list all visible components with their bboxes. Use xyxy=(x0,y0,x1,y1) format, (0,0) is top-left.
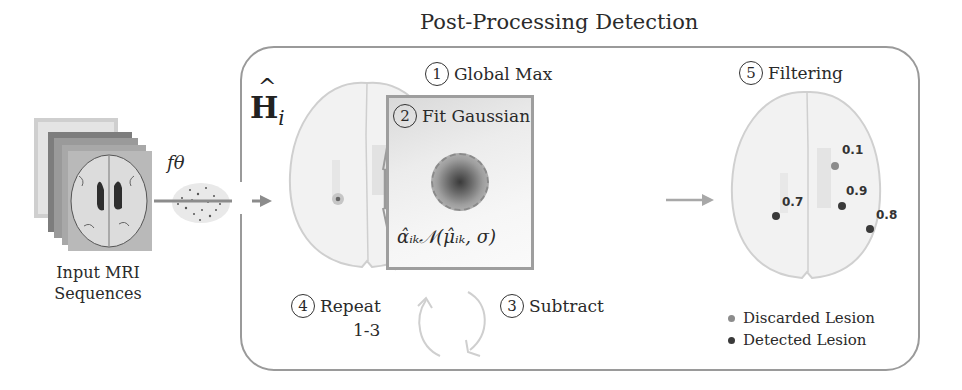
step-5-number: 5 xyxy=(739,61,763,85)
lesion-score: 0.7 xyxy=(782,195,803,209)
lesion-discarded-0-1 xyxy=(831,155,839,174)
lesion-score: 0.8 xyxy=(876,208,897,222)
heatmap-label-hat: ^ xyxy=(258,74,276,99)
input-caption-line1: Input MRI xyxy=(38,262,158,283)
input-caption: Input MRI Sequences xyxy=(38,262,158,304)
legend-item-discarded: Discarded Lesion xyxy=(728,309,875,327)
step-2-label: Fit Gaussian xyxy=(422,106,530,126)
diagram-title: Post-Processing Detection xyxy=(420,10,698,34)
legend: Discarded Lesion Detected Lesion xyxy=(728,309,875,349)
lesion-dot xyxy=(772,212,780,220)
lesion-detected-0-9 xyxy=(838,195,846,214)
legend-item-detected: Detected Lesion xyxy=(728,331,875,349)
step-1-label: Global Max xyxy=(454,64,552,84)
discarded-dot-icon xyxy=(728,315,735,322)
lesion-score: 0.9 xyxy=(846,184,867,198)
mri-sequence-stack xyxy=(34,116,154,251)
step-3-label: Subtract xyxy=(529,296,604,316)
step-3-number: 3 xyxy=(500,294,524,318)
step-4-label-line2: 1-3 xyxy=(353,320,380,340)
step-5-label: Filtering xyxy=(768,63,843,83)
lesion-score: 0.1 xyxy=(842,143,863,157)
gaussian-blob xyxy=(431,153,489,211)
to-filtering-arrow xyxy=(666,192,716,211)
lesion-dot xyxy=(831,162,839,170)
lesion-dot xyxy=(866,225,874,233)
step-5-filtering: 5 Filtering xyxy=(739,61,843,85)
step-3-subtract: 3 Subtract xyxy=(500,294,604,318)
legend-label-detected: Detected Lesion xyxy=(743,331,867,349)
detected-dot-icon xyxy=(728,337,735,344)
step-4-number: 4 xyxy=(291,294,315,318)
container-gap xyxy=(232,182,252,214)
legend-label-discarded: Discarded Lesion xyxy=(743,309,875,327)
input-caption-line2: Sequences xyxy=(38,283,158,304)
gaussian-zoom-box: 2 Fit Gaussian α̂ᵢₖ𝒩(μ̂ᵢₖ, σ) xyxy=(386,95,534,270)
step-2-number: 2 xyxy=(393,104,417,128)
model-label-text: fθ xyxy=(167,152,185,173)
lesion-dot xyxy=(838,202,846,210)
gaussian-formula: α̂ᵢₖ𝒩(μ̂ᵢₖ, σ) xyxy=(397,226,496,248)
repeat-cycle-arrows-icon xyxy=(408,288,498,364)
model-label: fθ xyxy=(167,152,185,173)
step-4-repeat: 4 Repeat xyxy=(291,294,381,318)
lesion-detected-0-7 xyxy=(772,205,780,224)
step-4-label: Repeat xyxy=(320,296,381,316)
mri-stack-graphic xyxy=(34,116,154,251)
lesion-detected-0-8 xyxy=(866,218,874,237)
heatmap-label: ^ H i xyxy=(250,90,285,130)
step-2-fit-gaussian: 2 Fit Gaussian xyxy=(393,104,530,128)
step-1-number: 1 xyxy=(425,62,449,86)
step-1-global-max: 1 Global Max xyxy=(425,62,552,86)
